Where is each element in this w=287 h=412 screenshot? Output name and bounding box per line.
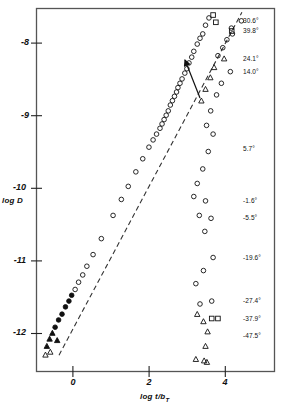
data-point-5-7 [200, 167, 205, 172]
data-point--5-5 [209, 216, 214, 221]
data-point-master [180, 77, 185, 82]
series-label-30-6: 30.6° [243, 17, 259, 24]
data-point-master [147, 145, 152, 150]
master-curve-arrow [185, 60, 200, 98]
data-point-master [168, 103, 173, 108]
data-point-master [54, 338, 59, 343]
data-point-24-1 [211, 65, 216, 70]
data-marker-layer [43, 13, 244, 365]
ytick-label-minus8: -8 [5, 37, 29, 47]
data-point-master [60, 312, 65, 317]
data-point--37-9 [216, 316, 221, 321]
data-point-5-7 [211, 132, 216, 137]
data-point-master [166, 109, 171, 114]
data-point-14-0 [214, 93, 219, 98]
figure-container: -8 -9 -10 -11 -12 0 2 4 log D log t/bT 3… [0, 0, 287, 412]
x-axis-title-subscript: T [165, 397, 169, 403]
ytick-label-minus12: -12 [2, 327, 26, 337]
data-point-master [170, 98, 175, 103]
data-point-master [126, 184, 131, 189]
data-point--47-5 [195, 311, 200, 316]
series-label-39-8: 39.8° [243, 27, 259, 34]
data-point-14-0 [228, 69, 233, 74]
data-point--47-5 [203, 343, 208, 348]
data-point-master [154, 132, 159, 137]
data-point--19-6 [211, 255, 216, 260]
xtick-label-0: 0 [65, 377, 81, 387]
master-curve [59, 12, 242, 355]
series-label--47-5: -47.5° [243, 332, 261, 339]
data-point-master [53, 325, 58, 330]
data-point-14-0 [219, 81, 224, 86]
data-point-master [47, 336, 52, 341]
xtick-label-2: 2 [141, 377, 157, 387]
data-point-5-7 [206, 149, 211, 154]
data-point-master [44, 343, 49, 348]
data-point-master [140, 156, 145, 161]
data-point-master [172, 94, 177, 99]
data-point--47-5 [193, 356, 198, 361]
data-point-master [80, 273, 85, 278]
data-point--47-5 [205, 329, 210, 334]
data-point-master [134, 170, 139, 175]
series-label--5-5: -5.5° [243, 214, 257, 221]
data-point-master [195, 42, 200, 47]
x-axis-title-main: log t/b [140, 392, 165, 401]
data-point-master [73, 287, 78, 292]
data-point-master [203, 23, 208, 28]
data-point-master [99, 236, 104, 241]
series-label--19-6: -19.6° [243, 254, 261, 261]
data-point-master [91, 252, 96, 257]
data-point-master [183, 71, 188, 76]
series-label--1-6: -1.6° [243, 197, 257, 204]
data-point-master [50, 330, 55, 335]
data-point--27-4 [198, 302, 203, 307]
data-point-master [174, 90, 179, 95]
data-point-master [111, 213, 116, 218]
ytick-label-minus11: -11 [2, 255, 26, 265]
data-point-24-1 [208, 75, 213, 80]
data-point--1-6 [197, 213, 202, 218]
data-point--47-5 [201, 319, 206, 324]
data-point-master [198, 36, 203, 41]
data-point-5-7 [195, 181, 200, 186]
data-point-14-0 [204, 123, 209, 128]
data-point-master [67, 299, 72, 304]
data-point-24-1 [203, 86, 208, 91]
data-point--19-6 [201, 268, 206, 273]
data-point-5-7 [191, 194, 196, 199]
series-label--37-9: -37.9° [243, 315, 261, 322]
data-point--19-6 [194, 281, 199, 286]
data-point-14-0 [208, 109, 213, 114]
data-point-master [63, 305, 68, 310]
data-point-master [176, 85, 181, 90]
data-point--5-5 [203, 229, 208, 234]
data-point-39-8 [214, 20, 219, 25]
data-point-master [187, 61, 192, 66]
series-label--27-4: -27.4° [243, 297, 261, 304]
data-point-master [200, 32, 205, 37]
data-point-master [207, 16, 212, 21]
data-point-master [164, 113, 169, 118]
data-point-master [69, 293, 74, 298]
data-point--1-6 [203, 199, 208, 204]
data-point-master [151, 138, 156, 143]
ytick-label-minus10: -10 [2, 182, 26, 192]
data-point--37-9 [209, 316, 214, 321]
y-axis-title: log D [2, 196, 23, 205]
data-point-24-1 [221, 56, 226, 61]
series-label-5-7: 5.7° [243, 145, 255, 152]
data-point-master [162, 117, 167, 122]
x-axis-title: log t/bT [140, 392, 169, 403]
data-point-master [56, 318, 61, 323]
plot-frame [37, 9, 275, 372]
data-point-master [189, 55, 194, 60]
series-label-24-1: 24.1° [243, 55, 259, 62]
data-point-master [48, 349, 53, 354]
data-point-master [178, 81, 183, 86]
series-label-14-0: 14.0° [243, 68, 259, 75]
data-point-master [158, 126, 163, 131]
data-point-master [119, 197, 124, 202]
scatter-plot-canvas [0, 0, 287, 412]
data-point-master [191, 49, 196, 54]
